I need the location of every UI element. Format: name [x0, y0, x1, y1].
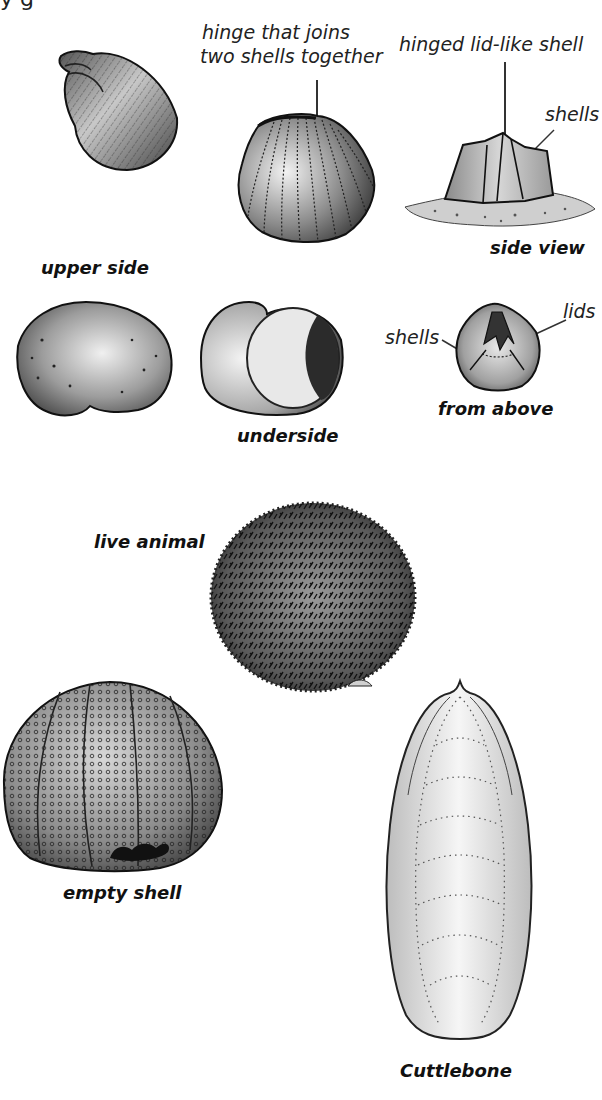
- cuttlebone-illustration: [380, 675, 540, 1040]
- topshell-underside-illustration: [197, 300, 345, 418]
- empty-shell-caption: empty shell: [63, 882, 182, 903]
- shells-side-callout: shells: [545, 103, 599, 126]
- upper-side-caption: upper side: [41, 257, 149, 278]
- hinged-lid-callout: hinged lid-like shell: [399, 33, 583, 56]
- hinge-callout-line2: two shells together: [200, 45, 383, 68]
- barnacle-side-illustration: [405, 125, 595, 230]
- underside-caption: underside: [237, 425, 339, 446]
- side-view-caption: side view: [490, 237, 585, 258]
- live-animal-caption: live animal: [94, 531, 205, 552]
- sea-urchin-test-illustration: [0, 680, 225, 875]
- winkle-shell-illustration: [55, 48, 185, 173]
- hinge-callout-line1: hinge that joins: [202, 21, 350, 44]
- cropped-heading-fragment: y g: [0, 0, 34, 11]
- from-above-caption: from above: [438, 398, 553, 419]
- topshell-upper-illustration: [12, 300, 174, 418]
- cockle-shell-illustration: [234, 108, 384, 248]
- shells-top-callout: shells: [385, 326, 439, 349]
- sea-urchin-live-illustration: [208, 500, 418, 695]
- barnacle-top-illustration: [452, 300, 544, 392]
- cuttlebone-caption: Cuttlebone: [400, 1060, 512, 1081]
